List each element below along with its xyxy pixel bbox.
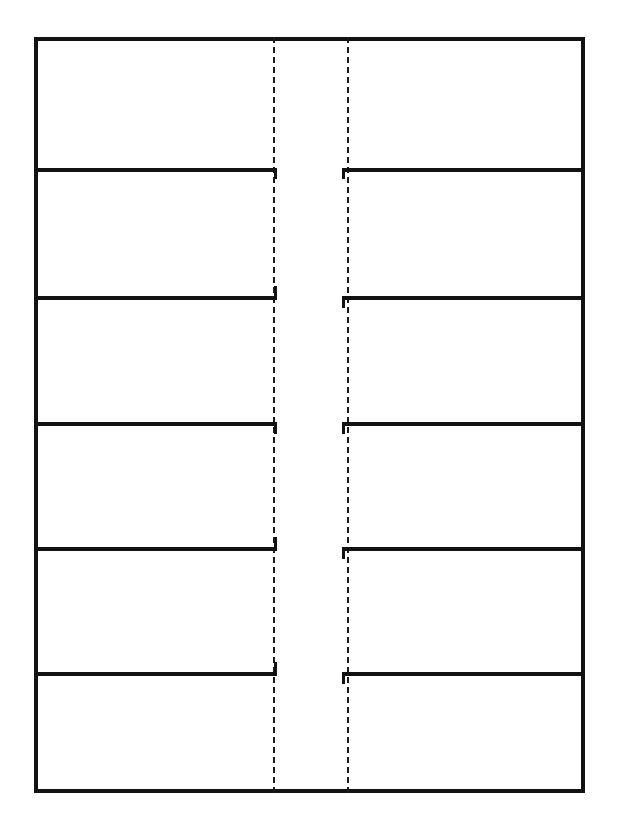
top-margin-artifact [0,3,617,17]
cell-row4-right[interactable] [345,426,581,547]
cell-row2-right[interactable] [345,172,581,296]
cell-row5-right[interactable] [345,551,581,672]
frame-right-edge [581,37,585,793]
bottom-margin-artifact [0,806,617,824]
cell-row2-left[interactable] [38,172,275,296]
cell-row6-left[interactable] [38,676,275,789]
cell-row6-right[interactable] [345,676,581,789]
frame-bottom-edge [34,789,585,793]
cell-row1-full[interactable] [38,41,581,168]
cell-row3-left[interactable] [38,300,275,422]
template-sheet [34,37,585,793]
cell-row3-right[interactable] [345,300,581,422]
cell-row4-left[interactable] [38,426,275,547]
document-page [0,0,617,829]
cell-row5-left[interactable] [38,551,275,672]
